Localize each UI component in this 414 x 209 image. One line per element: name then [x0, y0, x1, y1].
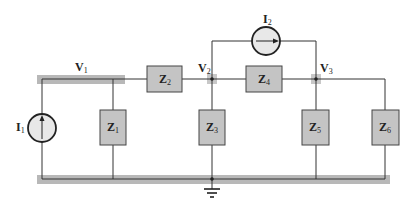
label-v2: V2 — [198, 61, 211, 76]
current-source-i1 — [28, 114, 56, 142]
label-i1: I1 — [16, 120, 25, 135]
ground-node-dot — [210, 177, 214, 181]
label-v1: V1 — [75, 60, 88, 75]
current-source-i2 — [252, 27, 280, 55]
node-v2-dot — [210, 77, 214, 81]
ground-icon — [204, 189, 220, 197]
circuit-diagram: V1 V2 V3 Z2 Z4 Z1 Z3 Z5 Z6 I1 I2 — [0, 0, 414, 209]
label-i2: I2 — [263, 12, 272, 27]
node-v3-dot — [314, 77, 318, 81]
label-v3: V3 — [320, 61, 333, 76]
